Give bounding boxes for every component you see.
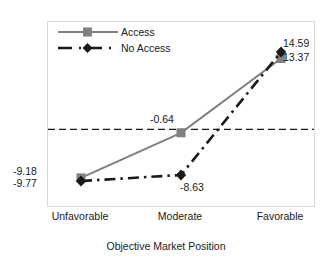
point-label-moderate-no-access: -8.63	[180, 182, 204, 193]
series-line-access	[81, 59, 281, 178]
legend-key-access-icon	[57, 25, 119, 39]
point-label-favorable-no-access: 14.59	[283, 38, 309, 49]
point-label-moderate-access: -0.64	[150, 114, 174, 125]
x-axis-title: Objective Market Position	[0, 240, 332, 252]
marker-no-access-moderate	[176, 169, 186, 180]
legend-key-no-access-icon	[57, 41, 119, 55]
x-tick-label-favorable: Favorable	[233, 210, 327, 222]
x-tick-label-unfavorable: Unfavorable	[33, 210, 127, 222]
legend: Access No Access	[57, 24, 187, 56]
point-label-unfavorable-access: -9.18	[13, 166, 37, 177]
marker-access-moderate	[177, 128, 186, 137]
point-label-unfavorable-no-access: -9.77	[13, 178, 37, 189]
legend-label-access: Access	[121, 27, 155, 38]
series-line-no-access	[81, 52, 281, 181]
legend-label-no-access: No Access	[121, 43, 171, 54]
point-label-favorable-access: 13.37	[283, 52, 309, 63]
legend-item-no-access: No Access	[57, 40, 187, 56]
legend-item-access: Access	[57, 24, 187, 40]
x-tick-label-moderate: Moderate	[133, 210, 227, 222]
line-chart: 20 15 10 5 0 -5 -10 -15	[0, 0, 332, 269]
